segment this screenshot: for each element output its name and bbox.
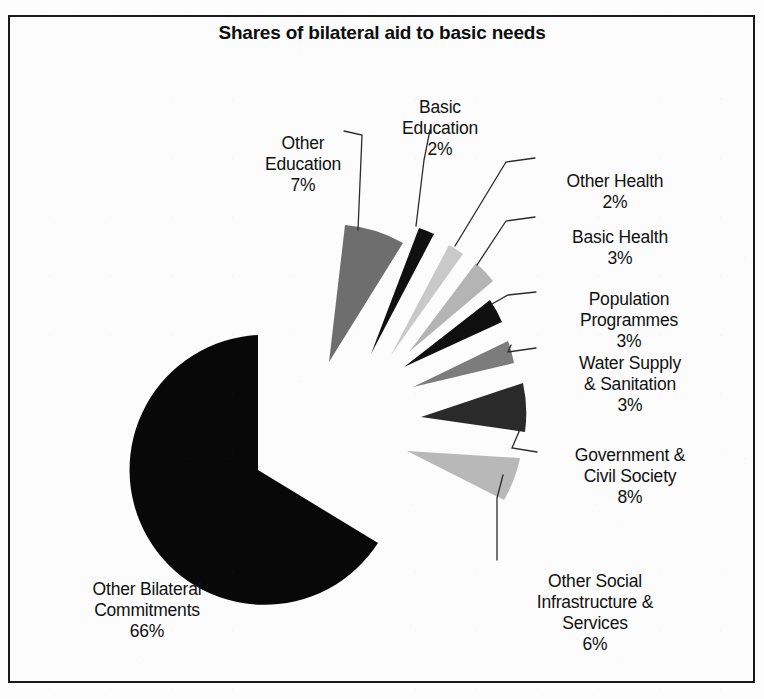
slice-label-pct: 8% xyxy=(540,487,720,508)
slice-label-government-civil-society: Government & Civil Society 8% xyxy=(540,424,720,529)
slice-label-text: Other Health xyxy=(567,171,664,191)
slice-label-water-supply-sanitation: Water Supply & Sanitation 3% xyxy=(540,332,720,437)
slice-label-pct: 3% xyxy=(540,248,700,269)
slice-label-text: Water Supply & Sanitation xyxy=(579,353,681,394)
slice-label-pct: 3% xyxy=(540,395,720,416)
slice-label-text: Population Programmes xyxy=(580,289,678,330)
slice-label-text: Other Bilateral Commitments xyxy=(93,579,202,620)
leader-line-water-supply xyxy=(508,345,536,352)
leader-line-basic-health xyxy=(477,217,535,265)
slice-label-pct: 66% xyxy=(52,621,242,642)
slice-label-pct: 6% xyxy=(500,634,690,655)
slice-label-pct: 7% xyxy=(243,175,363,196)
slice-label-pct: 2% xyxy=(380,139,500,160)
slice-label-text: Other Social Infrastructure & Services xyxy=(537,571,653,633)
slice-label-text: Basic Education xyxy=(402,97,478,138)
pie-slice-water-supply-sanitation[interactable] xyxy=(413,341,514,387)
slice-label-other-social-infrastructure: Other Social Infrastructure & Services 6… xyxy=(500,550,690,676)
slice-label-basic-education: Basic Education 2% xyxy=(380,76,500,181)
slice-label-other-education: Other Education 7% xyxy=(243,112,363,217)
slice-label-other-bilateral-commitments: Other Bilateral Commitments 66% xyxy=(52,558,242,663)
slice-label-text: Other Education xyxy=(265,133,341,174)
slice-label-text: Basic Health xyxy=(572,227,668,247)
pie-slice-government-civil-society[interactable] xyxy=(421,383,526,432)
leader-line-population-programmes xyxy=(492,292,536,304)
slice-label-text: Government & Civil Society xyxy=(575,445,685,486)
pie-slice-other-education[interactable] xyxy=(329,225,403,362)
